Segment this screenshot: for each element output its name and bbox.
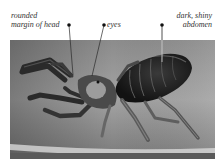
- label-eyes: eyes: [107, 21, 121, 30]
- label-rounded-margin-of-head: rounded margin of head: [11, 12, 60, 29]
- label-dark-shiny-abdomen: dark, shiny abdomen: [162, 12, 212, 29]
- spider-photo: [10, 40, 215, 159]
